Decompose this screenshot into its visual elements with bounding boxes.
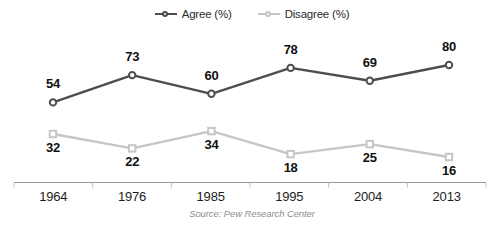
data-point-marker [287,65,293,71]
x-axis-tick-label: 1995 [275,189,303,204]
data-label-disagree: 34 [204,137,218,152]
chart-container: Agree (%) Disagree (%) 54736078698032223… [0,0,504,230]
x-axis [14,183,486,188]
data-point-marker [287,151,293,157]
x-axis-tick-label: 2004 [354,189,382,204]
data-label-disagree: 18 [284,160,298,175]
data-point-marker [208,91,214,97]
source-note: Source: Pew Research Center [0,208,504,219]
data-label-disagree: 25 [363,150,377,165]
data-label-agree: 80 [442,39,456,54]
data-point-marker [208,128,214,134]
data-point-marker [50,99,56,105]
data-point-marker [50,131,56,137]
x-axis-tick-label: 1964 [39,189,67,204]
data-label-agree: 69 [363,55,377,70]
x-axis-tick-label: 2013 [433,189,461,204]
data-label-agree: 54 [46,76,60,91]
data-label-disagree: 16 [442,163,456,178]
data-point-marker [446,154,452,160]
data-label-disagree: 22 [125,154,139,169]
x-axis-tick-label: 1985 [197,189,225,204]
data-label-disagree: 32 [46,140,60,155]
data-point-marker [129,72,135,78]
plot-area [0,0,504,230]
series-disagree-line [53,131,449,157]
series-agree-line [53,65,449,102]
data-point-marker [129,145,135,151]
x-axis-tick-label: 1976 [118,189,146,204]
data-point-marker [446,62,452,68]
data-label-agree: 73 [125,49,139,64]
data-label-agree: 60 [204,68,218,83]
data-point-marker [367,141,373,147]
chart-svg [0,0,504,230]
data-point-marker [367,78,373,84]
data-label-agree: 78 [284,42,298,57]
